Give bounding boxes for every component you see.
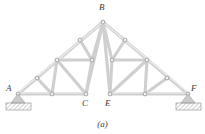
- member-web-right-upper-diagonal: [112, 40, 125, 60]
- label-joint-f: F: [191, 84, 197, 93]
- joint-bottom-right-mid: [143, 92, 147, 96]
- member-web-left-upper-diagonal: [80, 40, 92, 60]
- member-web-right-inner-to-E: [110, 60, 112, 94]
- truss-diagram-canvas: [0, 0, 205, 134]
- truss-members: [18, 22, 188, 94]
- joint-right-chord-low: [165, 76, 169, 80]
- joint-right-chord-mid: [145, 58, 149, 62]
- support-F-base-hatch: [176, 103, 201, 110]
- label-joint-a: A: [6, 84, 12, 93]
- label-joint-b: B: [99, 3, 105, 12]
- figure-caption: (a): [0, 119, 205, 129]
- member-web-right-diagonal-to-E: [110, 60, 147, 94]
- joint-right-chord-high: [123, 38, 127, 42]
- member-web-right-vertical: [145, 60, 147, 94]
- joint-left-inner: [90, 58, 94, 62]
- member-web-left-diagonal-to-C: [57, 60, 86, 94]
- joint-E: [108, 92, 112, 96]
- joint-bottom-left-mid: [50, 92, 54, 96]
- joint-left-chord-high: [78, 38, 82, 42]
- label-joint-c: C: [82, 99, 88, 108]
- support-F: [176, 94, 201, 110]
- joint-left-chord-low: [35, 76, 39, 80]
- joint-C: [84, 92, 88, 96]
- member-web-left-lower-diagonal: [37, 78, 52, 94]
- truss-figure: A B C E F (a): [0, 0, 205, 134]
- joint-right-inner: [110, 58, 114, 62]
- joint-B: [101, 20, 105, 24]
- support-A: [6, 94, 31, 110]
- support-A-base-hatch: [6, 103, 31, 110]
- member-web-right-lower-diagonal: [145, 78, 167, 94]
- label-joint-e: E: [105, 99, 111, 108]
- joint-left-chord-mid: [55, 58, 59, 62]
